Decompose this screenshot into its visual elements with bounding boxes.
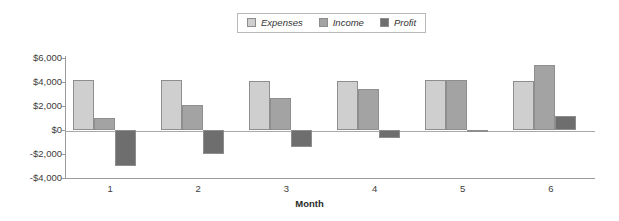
- bar-profit-3: [291, 130, 312, 147]
- bar-profit-6: [555, 116, 576, 130]
- y-tick-label: $4,000: [33, 77, 62, 87]
- bar-expenses-5: [425, 80, 446, 130]
- bar-expenses-3: [249, 81, 270, 130]
- x-axis-title: Month: [0, 199, 619, 209]
- y-axis: $6,000$4,000$2,000$0-$2,000-$4,000: [0, 0, 62, 221]
- bar-group: [331, 58, 419, 178]
- bar-profit-5: [467, 130, 488, 132]
- y-tick-label: $6,000: [33, 53, 62, 63]
- chart-legend: Expenses Income Profit: [237, 13, 426, 33]
- bar-group: [66, 58, 154, 178]
- bar-profit-4: [379, 130, 400, 138]
- legend-item-expenses: Expenses: [247, 18, 303, 28]
- x-tick-label: 4: [372, 184, 377, 194]
- legend-swatch-income: [319, 18, 328, 27]
- x-tick-label: 3: [284, 184, 289, 194]
- bar-chart: Expenses Income Profit $6,000$4,000$2,00…: [0, 0, 619, 221]
- bar-group: [419, 58, 507, 178]
- y-tick-label: -$2,000: [30, 149, 62, 159]
- plot-area: [66, 58, 595, 178]
- legend-label-income: Income: [333, 18, 364, 28]
- bar-profit-2: [203, 130, 224, 154]
- x-tick-label: 2: [196, 184, 201, 194]
- bar-income-3: [270, 98, 291, 130]
- bar-profit-1: [115, 130, 136, 166]
- bar-income-2: [182, 105, 203, 130]
- y-tick-label: -$4,000: [30, 173, 62, 183]
- bar-expenses-4: [337, 81, 358, 130]
- legend-swatch-expenses: [247, 18, 256, 27]
- y-tick-label: $2,000: [33, 101, 62, 111]
- bar-expenses-1: [73, 80, 94, 130]
- x-axis-line: [66, 178, 595, 179]
- bar-group: [242, 58, 330, 178]
- legend-label-profit: Profit: [394, 18, 416, 28]
- bar-group: [507, 58, 595, 178]
- bar-expenses-6: [513, 81, 534, 130]
- bar-income-1: [94, 118, 115, 130]
- bar-group: [154, 58, 242, 178]
- legend-label-expenses: Expenses: [261, 18, 303, 28]
- x-tick-label: 1: [107, 184, 112, 194]
- bar-income-6: [534, 65, 555, 130]
- x-tick-label: 6: [548, 184, 553, 194]
- bar-income-5: [446, 80, 467, 130]
- y-tick-label: $0: [51, 125, 62, 135]
- bar-income-4: [358, 89, 379, 130]
- x-tick-label: 5: [460, 184, 465, 194]
- legend-swatch-profit: [380, 18, 389, 27]
- bar-expenses-2: [161, 80, 182, 130]
- legend-item-profit: Profit: [380, 18, 416, 28]
- legend-item-income: Income: [319, 18, 364, 28]
